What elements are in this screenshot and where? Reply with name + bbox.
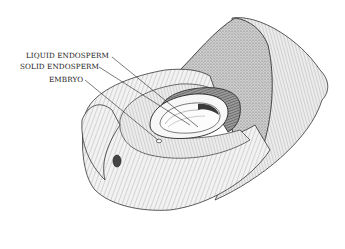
label-solid-endosperm: SOLID ENDOSPERM — [20, 63, 99, 70]
coconut-diagram: LIQUID ENDOSPERM SOLID ENDOSPERM EMBRYO — [0, 0, 345, 249]
stem-scar — [113, 155, 121, 167]
label-embryo: EMBRYO — [49, 76, 83, 83]
embryo — [156, 139, 161, 143]
coconut-illustration — [0, 0, 345, 249]
label-liquid-endosperm: LIQUID ENDOSPERM — [26, 52, 109, 59]
